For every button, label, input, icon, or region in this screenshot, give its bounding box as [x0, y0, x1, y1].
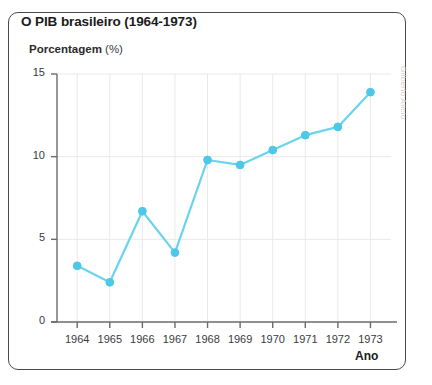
- series-line-group: [77, 92, 370, 282]
- data-point-marker: [171, 249, 179, 257]
- data-point-marker: [301, 131, 309, 139]
- y-axis-label-text: Porcentagem: [29, 43, 102, 55]
- series-line-pib: [77, 92, 370, 282]
- y-axis-label-unit: (%): [105, 43, 123, 55]
- data-point-marker: [367, 88, 375, 96]
- x-axis-label: Ano: [355, 349, 378, 363]
- y-tick-label: 0: [21, 314, 45, 326]
- x-tick-label: 1973: [350, 333, 390, 345]
- tick-marks-group: [51, 74, 370, 328]
- data-point-marker: [204, 156, 212, 164]
- y-tick-label: 5: [21, 231, 45, 243]
- series-markers-group: [73, 88, 374, 286]
- page-title: O PIB brasileiro (1964-1973): [17, 13, 203, 31]
- axis-lines-group: [51, 74, 397, 322]
- data-point-marker: [334, 123, 342, 131]
- attribution-credit: Gilberto Alicio: [298, 66, 408, 78]
- y-tick-label: 10: [21, 149, 45, 161]
- data-point-marker: [236, 161, 244, 169]
- y-axis-label: Porcentagem (%): [29, 43, 123, 55]
- y-tick-label: 15: [21, 66, 45, 78]
- data-point-marker: [138, 207, 146, 215]
- data-point-marker: [106, 278, 114, 286]
- data-point-marker: [73, 262, 81, 270]
- data-point-marker: [269, 146, 277, 154]
- line-chart-plot: [0, 0, 432, 385]
